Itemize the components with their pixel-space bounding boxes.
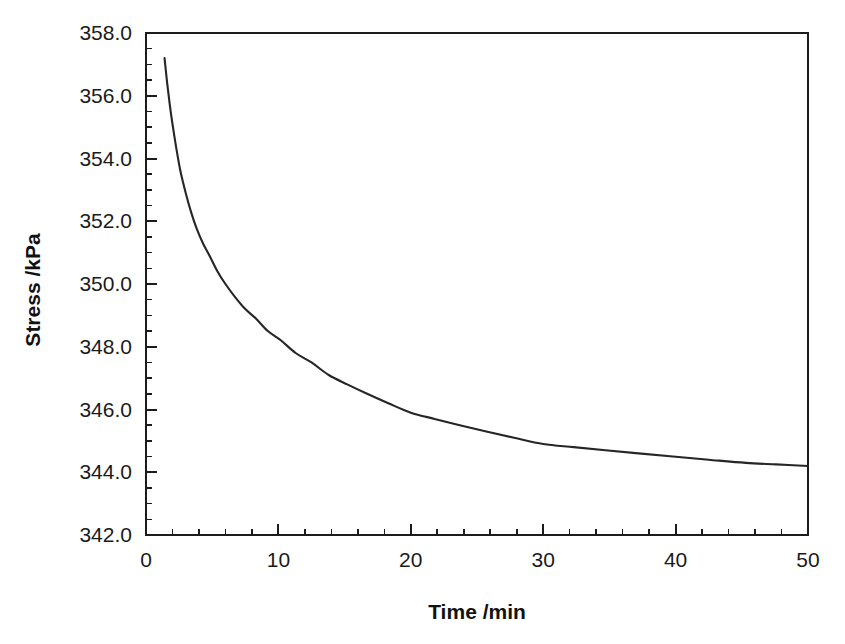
y-tick-label: 358.0 xyxy=(79,21,132,44)
y-axis-ticks xyxy=(146,33,157,535)
y-tick-label: 346.0 xyxy=(79,398,132,421)
x-tick-label: 30 xyxy=(532,548,555,571)
stress-vs-time-chart: 342.0344.0346.0348.0350.0352.0354.0356.0… xyxy=(0,0,845,644)
y-tick-label: 354.0 xyxy=(79,147,132,170)
x-tick-label: 20 xyxy=(399,548,422,571)
x-tick-label: 0 xyxy=(140,548,152,571)
scan-artifact-ghost-text xyxy=(130,624,134,641)
y-tick-label: 352.0 xyxy=(79,209,132,232)
figure-canvas: 342.0344.0346.0348.0350.0352.0354.0356.0… xyxy=(0,0,845,644)
x-axis-ticks xyxy=(146,524,808,535)
y-tick-label: 348.0 xyxy=(79,335,132,358)
y-axis-tick-labels: 342.0344.0346.0348.0350.0352.0354.0356.0… xyxy=(79,21,132,546)
y-tick-label: 350.0 xyxy=(79,272,132,295)
data-series-line xyxy=(165,58,808,466)
x-axis-title: Time /min xyxy=(428,600,526,623)
y-tick-label: 342.0 xyxy=(79,523,132,546)
x-tick-label: 10 xyxy=(267,548,290,571)
y-tick-label: 344.0 xyxy=(79,460,132,483)
y-tick-label: 356.0 xyxy=(79,84,132,107)
x-tick-label: 40 xyxy=(664,548,687,571)
y-axis-title: Stress /kPa xyxy=(21,233,44,347)
x-axis-tick-labels: 01020304050 xyxy=(140,548,820,571)
x-tick-label: 50 xyxy=(796,548,819,571)
